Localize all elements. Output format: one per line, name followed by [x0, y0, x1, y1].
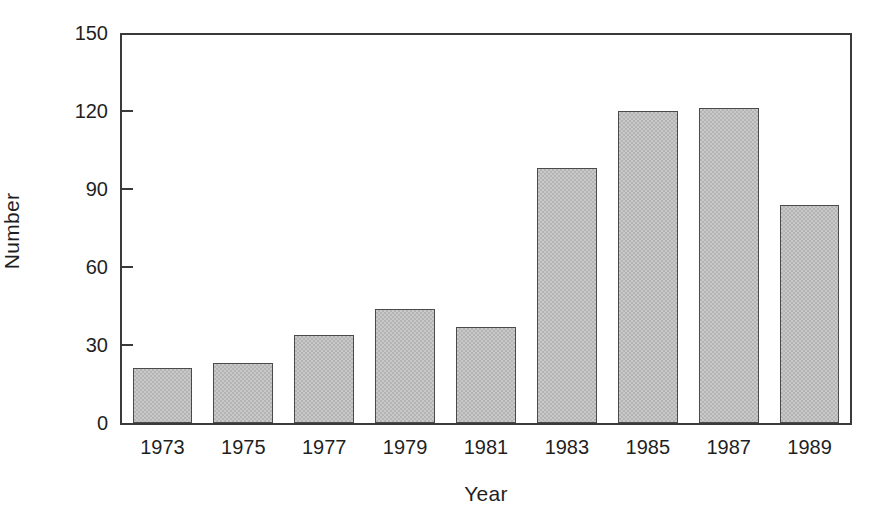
plot-frame-top [120, 33, 852, 35]
bar [618, 111, 678, 423]
x-axis-tick-label: 1979 [365, 437, 445, 457]
x-axis-title: Year [120, 482, 852, 506]
x-axis-tick-label: 1989 [770, 437, 850, 457]
bar [375, 309, 435, 423]
y-axis-tick [122, 188, 133, 190]
x-axis-tick-label: 1977 [284, 437, 364, 457]
bar [294, 335, 354, 423]
bar [456, 327, 516, 423]
bar-chart-figure: Number Year 0306090120150 19731975197719… [0, 0, 891, 528]
x-axis-line [120, 423, 852, 425]
plot-area [120, 33, 852, 425]
y-axis-tick-label: 90 [28, 179, 108, 199]
x-axis-tick-label: 1973 [122, 437, 202, 457]
x-axis-tick-label: 1985 [608, 437, 688, 457]
x-axis-tick-label: 1981 [446, 437, 526, 457]
y-axis-tick [122, 266, 133, 268]
x-axis-tick-label: 1975 [203, 437, 283, 457]
y-axis-tick-label: 60 [28, 257, 108, 277]
bar [699, 108, 759, 423]
bar [133, 368, 193, 423]
bar [780, 205, 840, 423]
y-axis-tick [122, 344, 133, 346]
bar [213, 363, 273, 423]
y-axis-line [120, 33, 122, 425]
y-axis-tick [122, 110, 133, 112]
x-axis-tick-label: 1983 [527, 437, 607, 457]
bar [537, 168, 597, 423]
y-axis-title: Number [0, 183, 24, 279]
y-axis-tick-label: 120 [28, 101, 108, 121]
plot-frame-right [850, 33, 852, 425]
y-axis-tick-label: 30 [28, 335, 108, 355]
x-axis-tick-label: 1987 [689, 437, 769, 457]
y-axis-tick-label: 150 [28, 23, 108, 43]
y-axis-tick-label: 0 [28, 413, 108, 433]
